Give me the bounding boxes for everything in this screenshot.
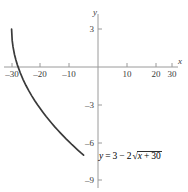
y-tick-label-neg6: –6 [84,138,95,148]
x-tick-label-neg10: –10 [61,69,76,79]
radicand-group: x+30 [137,151,162,162]
y-tick-label-3: 3 [90,24,95,34]
x-tick-label-neg30: –30 [4,69,19,79]
x-tick-label-20: 20 [152,69,162,79]
x-tick-label-neg20: –20 [32,69,47,79]
radicand-plus: + [144,151,149,161]
coordinate-plot: –30 –20 –10 10 20 30 3 –3 –6 –9 x y [0,0,188,192]
function-curve [12,29,84,155]
x-tick-label-30: 30 [168,69,178,79]
y-tick-label-neg3: –3 [84,100,95,110]
graph-figure: –30 –20 –10 10 20 30 3 –3 –6 –9 x y y=3−… [0,0,188,192]
equation-minus: − [119,151,124,161]
equation-equals: = [105,151,110,161]
equation-lhs: y [99,151,103,161]
y-tick-label-neg9: –9 [84,175,95,185]
radicand-variable: x [138,151,142,161]
y-axis-label: y [92,7,97,17]
equation-constant: 3 [113,151,118,161]
radicand-constant: 30 [151,151,161,161]
x-axis-label: x [177,56,182,66]
radical-group: √x+30 [131,151,161,162]
equation-annotation: y=3−2√x+30 [99,146,162,162]
x-tick-label-10: 10 [123,69,133,79]
